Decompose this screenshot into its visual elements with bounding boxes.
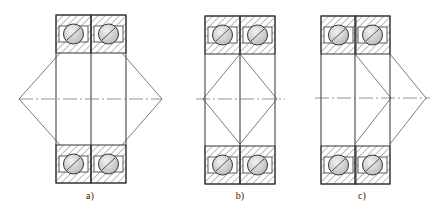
bearing-b (196, 16, 285, 184)
label-a: a) (86, 190, 94, 201)
bearing-c (315, 16, 430, 184)
label-b: b) (236, 190, 244, 201)
bearing-diagram (0, 0, 441, 214)
bearing-a (19, 15, 162, 183)
label-c: c) (358, 190, 366, 201)
